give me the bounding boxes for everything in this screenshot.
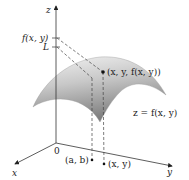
point-xy-label: (x, y) [108, 159, 131, 169]
y-axis-label: y [166, 167, 173, 177]
surface-equation-label: z = f(x, y) [133, 108, 177, 118]
surface-limit-diagram: z x y 0 f(x, y) L (x, y, f(x, y)) z = f(… [0, 0, 189, 180]
tick-label-L: L [42, 42, 49, 52]
origin-label: 0 [54, 146, 60, 156]
point-xy-marker [103, 163, 106, 166]
point-ab-label: (a, b) [65, 155, 89, 165]
point-ab-marker [91, 159, 94, 162]
x-axis-label: x [12, 168, 17, 178]
surface-point-marker [101, 70, 105, 74]
surface-point-label: (x, y, f(x, y)) [107, 67, 161, 77]
x-axis [15, 143, 56, 164]
z-axis-label: z [45, 5, 51, 15]
